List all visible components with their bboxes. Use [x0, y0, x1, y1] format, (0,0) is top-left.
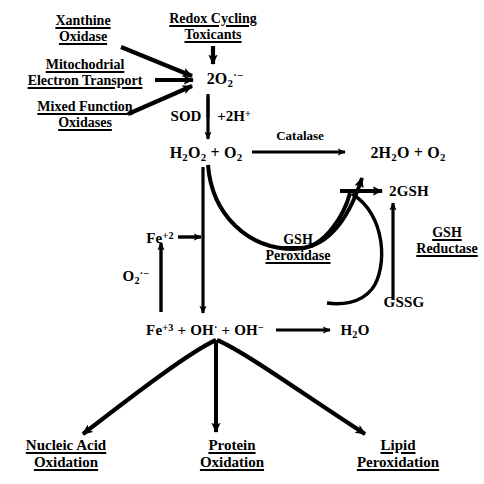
fenton-fe-sup: +3 — [162, 322, 173, 333]
fenton-hydroxide: + OH — [218, 322, 258, 338]
label-2gsh: 2GSH — [389, 183, 429, 200]
h2o-o2-h: 2H — [370, 144, 391, 161]
label-xanthine-oxidase: Xanthine Oxidase — [55, 13, 110, 44]
label-lipid-peroxidation: Lipid Peroxidation — [357, 437, 439, 471]
water-o: O — [358, 322, 370, 338]
gssg-text: GSSG — [384, 294, 425, 310]
redox-line1: Redox Cycling — [169, 11, 257, 27]
h2o-o2-o2: O — [427, 144, 440, 161]
water-h: H — [340, 322, 352, 338]
ferrous-fe: Fe — [146, 230, 162, 246]
h2o2-o2-sub: 2 — [237, 151, 243, 163]
label-hydrogen-peroxide: H2O2 + O2 — [170, 144, 243, 163]
label-catalase: Catalase — [276, 129, 324, 144]
superoxide-left-o: O — [123, 268, 135, 284]
mito-line2: Electron Transport — [28, 73, 143, 89]
h2o-o2-o: O — [397, 144, 410, 161]
lipid-line2: Peroxidation — [357, 454, 439, 471]
h2o-o2-o2-sub: 2 — [440, 151, 446, 163]
protein-line2: Oxidation — [200, 454, 264, 471]
label-ferrous-iron: Fe+2 — [146, 230, 174, 247]
gsh-reductase-line1: GSH — [416, 225, 477, 241]
h2o2-o2: O — [224, 144, 237, 161]
h2o2-h: H — [170, 144, 183, 161]
label-fenton-products: Fe+3 + OH· + OH− — [146, 322, 264, 339]
label-nucleic-acid-oxidation: Nucleic Acid Oxidation — [26, 437, 106, 471]
gsh-reductase-line2: Reductase — [416, 241, 477, 257]
fenton-oh-radical: + OH — [174, 322, 214, 338]
label-sod-protons: +2H+ — [217, 108, 251, 125]
label-sod: SOD — [171, 108, 202, 125]
mfo-line1: Mixed Function — [37, 99, 132, 115]
arrow-fenton-to-lipid-peroxidation — [217, 340, 365, 434]
fenton-fe: Fe — [146, 322, 162, 338]
label-protein-oxidation: Protein Oxidation — [200, 437, 264, 471]
label-water: H2O — [340, 322, 369, 340]
label-gsh-peroxidase: GSH Peroxidase — [265, 232, 330, 263]
catalase-text: Catalase — [276, 128, 324, 143]
h2o2-plus: + — [206, 144, 224, 161]
mfo-line2: Oxidases — [37, 115, 132, 131]
label-gsh-reductase: GSH Reductase — [416, 225, 477, 256]
ferrous-sup: +2 — [162, 230, 173, 241]
nucleic-acid-line1: Nucleic Acid — [26, 437, 106, 454]
label-superoxide-hub: 2O2·− — [207, 69, 244, 89]
label-superoxide-left: O2·− — [123, 268, 150, 287]
mito-line1: Mitochodrial — [28, 57, 143, 73]
arrow-fenton-to-nucleic-acid-oxidation — [83, 340, 216, 434]
curve-gssg-loop — [327, 194, 382, 304]
superoxide-left-sup: ·− — [140, 268, 150, 279]
gsh-peroxidase-line1: GSH — [265, 232, 330, 248]
gsh-peroxidase-line2: Peroxidase — [265, 248, 330, 264]
redox-line2: Toxicants — [169, 27, 257, 43]
fenton-hydroxide-sup: − — [258, 322, 264, 333]
lipid-line1: Lipid — [357, 437, 439, 454]
two-gsh-text: 2GSH — [389, 183, 429, 199]
label-mixed-function-oxidases: Mixed Function Oxidases — [37, 99, 132, 130]
superoxide-hub-prefix: 2O — [207, 70, 228, 87]
sod-protons-prefix: +2H — [217, 108, 245, 124]
label-mitochondrial-electron-transport: Mitochodrial Electron Transport — [28, 57, 143, 88]
label-gssg: GSSG — [384, 294, 425, 311]
protein-line1: Protein — [200, 437, 264, 454]
h2o2-o: O — [188, 144, 201, 161]
xanthine-oxidase-line2: Oxidase — [55, 29, 110, 45]
label-water-oxygen: 2H2O + O2 — [370, 144, 445, 163]
sod-text: SOD — [171, 108, 202, 124]
sod-protons-sup: + — [245, 108, 251, 119]
h2o-o2-plus: + — [410, 144, 428, 161]
superoxide-hub-sup: ·− — [233, 69, 243, 81]
pathway-diagram: Xanthine Oxidase Mitochodrial Electron T… — [0, 0, 484, 484]
nucleic-acid-line2: Oxidation — [26, 454, 106, 471]
label-redox-cycling-toxicants: Redox Cycling Toxicants — [169, 11, 257, 42]
xanthine-oxidase-line1: Xanthine — [55, 13, 110, 29]
